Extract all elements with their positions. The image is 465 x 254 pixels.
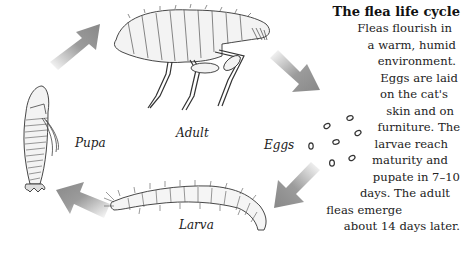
caption-line: larvae reach <box>300 136 462 153</box>
diagram-title: The flea life cycle <box>300 4 462 20</box>
stage-label-pupa: Pupa <box>75 136 106 150</box>
caption-line: pupate in 7–10 <box>300 169 462 186</box>
flea-life-cycle-diagram: Adult Eggs Larva Pupa The flea life cycl… <box>0 0 465 254</box>
pupa-illustration <box>24 86 59 192</box>
caption-line: on the cat's <box>300 86 462 103</box>
caption-line: a warm, humid <box>300 37 462 54</box>
caption-line: Eggs are laid <box>300 70 462 87</box>
caption-line: fleas emerge <box>300 202 462 219</box>
stage-label-eggs: Eggs <box>264 138 294 152</box>
arrow-larva-to-pupa-icon <box>56 182 110 218</box>
caption-line: about 14 days later. <box>300 218 462 235</box>
caption-line: days. The adult <box>300 185 462 202</box>
stage-label-larva: Larva <box>179 218 214 232</box>
caption-line: Fleas flourish in <box>300 20 462 37</box>
caption-line: maturity and <box>300 152 462 169</box>
arrow-pupa-to-adult-icon <box>50 24 100 70</box>
caption-line: environment. <box>300 53 462 70</box>
caption-block: The flea life cycle Fleas flourish in a … <box>300 4 462 235</box>
caption-line: skin and on <box>300 103 462 120</box>
adult-flea-illustration <box>114 4 269 110</box>
caption-line: furniture. The <box>300 119 462 136</box>
stage-label-adult: Adult <box>176 126 209 140</box>
